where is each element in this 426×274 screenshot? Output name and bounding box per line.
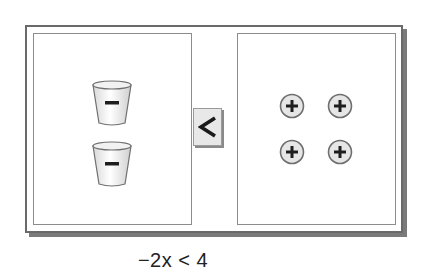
left-side-panel bbox=[33, 33, 192, 225]
comparison-symbol-box bbox=[193, 108, 222, 146]
negative-cup-icon bbox=[90, 79, 134, 127]
less-than-icon bbox=[198, 115, 218, 139]
positive-counter-icon bbox=[279, 139, 305, 165]
positive-counter-icon bbox=[279, 93, 305, 119]
right-side-panel bbox=[237, 33, 396, 225]
negative-cup-icon bbox=[90, 140, 134, 188]
positive-counter-icon bbox=[327, 93, 353, 119]
positive-counter-icon bbox=[327, 139, 353, 165]
inequality-caption: −2x < 4 bbox=[118, 249, 228, 272]
